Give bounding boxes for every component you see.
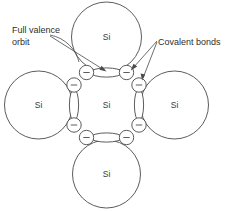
si-label-left: Si bbox=[35, 100, 43, 110]
annotation-full-valence-orbit-line2: orbit bbox=[12, 37, 30, 47]
si-label-bottom: Si bbox=[103, 169, 111, 179]
lattice-diagram-canvas: Si Si Si Si Si Full valence orbit Covale… bbox=[0, 0, 228, 211]
annotation-covalent-bonds: Covalent bonds bbox=[158, 37, 221, 47]
covalent-bond-left bbox=[69, 89, 78, 121]
silicon-lattice-figure: Si Si Si Si Si Full valence orbit Covale… bbox=[0, 0, 228, 211]
si-label-right: Si bbox=[171, 100, 179, 110]
si-label-top: Si bbox=[103, 32, 111, 42]
covalent-bond-top bbox=[91, 68, 123, 77]
si-label-center: Si bbox=[103, 100, 111, 110]
leader-line-covalent-bond-2 bbox=[143, 42, 157, 78]
covalent-bond-right bbox=[134, 89, 143, 121]
covalent-bond-bottom bbox=[91, 133, 123, 142]
annotation-full-valence-orbit-line1: Full valence bbox=[12, 25, 60, 35]
